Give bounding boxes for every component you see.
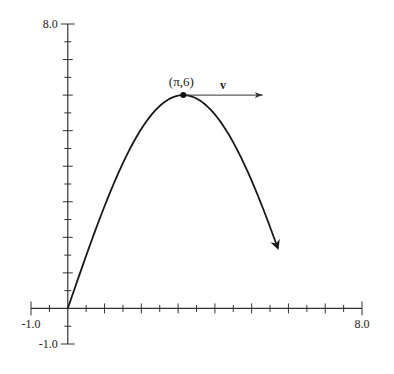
velocity-vector-label: v	[220, 78, 226, 92]
parametric-curve	[68, 95, 278, 308]
x-axis-max-label: 8.0	[355, 317, 370, 331]
diagram-canvas: -1.0 8.0 -1.0 8.0 v (π,6)	[0, 0, 394, 374]
x-axis-min-label: -1.0	[22, 317, 41, 331]
peak-point-marker	[180, 92, 186, 98]
x-axis	[31, 301, 362, 315]
y-axis-min-label: -1.0	[39, 337, 58, 351]
y-axis-max-label: 8.0	[43, 17, 58, 31]
peak-point-label: (π,6)	[169, 74, 194, 89]
